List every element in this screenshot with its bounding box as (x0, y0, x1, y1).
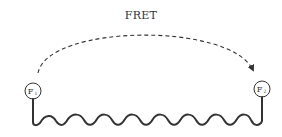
f2-subscript: 2 (264, 89, 267, 94)
acceptor-fluorophore-f2: F 2 (254, 81, 270, 97)
fret-diagram: FRET F 1 F 2 (0, 0, 282, 137)
donor-fluorophore-f1: F 1 (25, 83, 41, 99)
wavy-linker-chain (33, 97, 262, 125)
fret-transfer-arrow (38, 35, 253, 73)
diagram-title: FRET (125, 9, 158, 22)
f2-label: F (257, 85, 263, 94)
f1-subscript: 1 (35, 91, 38, 96)
f1-label: F (28, 87, 34, 96)
